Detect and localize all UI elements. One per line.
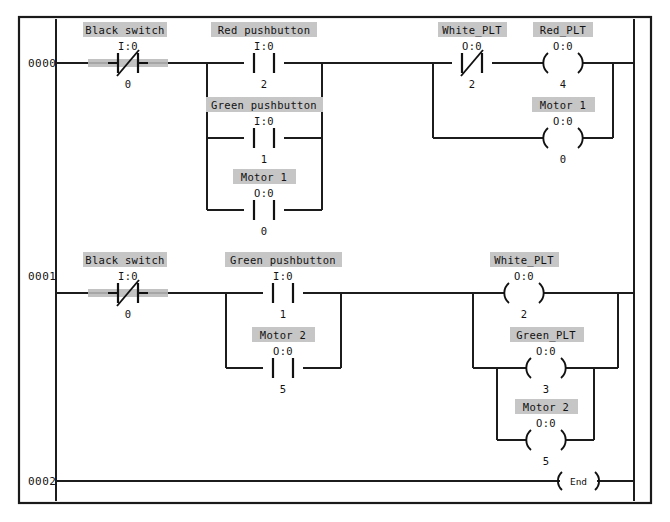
- rung-number-0002: 0002: [28, 475, 57, 488]
- element-address: O:0: [514, 270, 534, 282]
- element-motor1-contact-r0[interactable]: Motor 1 O:0 0: [233, 169, 296, 237]
- element-bit: 2: [521, 308, 527, 320]
- end-label: End: [570, 476, 587, 487]
- element-green-pushbutton-r0[interactable]: Green pushbutton I:0 1: [206, 97, 323, 165]
- element-address: I:0: [254, 115, 274, 127]
- element-address: O:0: [462, 40, 482, 52]
- element-address: I:0: [254, 40, 274, 52]
- element-address: I:0: [118, 40, 138, 52]
- element-name: Motor 1: [540, 99, 586, 111]
- element-green-pushbutton-r1[interactable]: Green pushbutton I:0 1: [225, 252, 342, 320]
- element-white-plt-coil-r1[interactable]: White_PLT O:0 2: [490, 252, 559, 320]
- element-bit: 1: [261, 153, 267, 165]
- element-address: I:0: [273, 270, 293, 282]
- element-address: O:0: [553, 40, 573, 52]
- element-bit: 3: [543, 383, 549, 395]
- element-name: Motor 2: [260, 329, 306, 341]
- element-name: Red_PLT: [540, 24, 587, 37]
- element-address: O:0: [273, 345, 293, 357]
- element-bit: 0: [560, 153, 566, 165]
- element-name: Black switch: [85, 254, 164, 266]
- element-address: O:0: [536, 417, 556, 429]
- element-name: Motor 1: [241, 171, 287, 183]
- element-red-plt-coil-r0[interactable]: Red_PLT O:0 4: [533, 22, 593, 90]
- element-bit: 0: [125, 78, 131, 90]
- element-bit: 5: [280, 383, 286, 395]
- element-bit: 4: [560, 78, 566, 90]
- element-motor1-coil-r0[interactable]: Motor 1 O:0 0: [532, 97, 595, 165]
- element-black-switch-r0[interactable]: Black switch I:0 0: [83, 22, 168, 90]
- element-bit: 2: [469, 78, 475, 90]
- element-bit: 0: [261, 225, 267, 237]
- ladder-diagram-canvas: 0000 Black switch I:0 0 Red pushbutton I…: [0, 0, 670, 522]
- element-bit: 0: [125, 308, 131, 320]
- element-name: Black switch: [85, 24, 164, 36]
- element-black-switch-r1[interactable]: Black switch I:0 0: [83, 252, 168, 320]
- ladder-logic-svg: 0000 Black switch I:0 0 Red pushbutton I…: [0, 0, 670, 522]
- element-address: O:0: [254, 187, 274, 199]
- element-name: Green pushbutton: [211, 99, 317, 111]
- rung-number-0000: 0000: [28, 57, 57, 70]
- element-motor2-coil-r1[interactable]: Motor 2 O:0 5: [515, 399, 578, 467]
- element-name: Green_PLT: [516, 329, 576, 342]
- rung-0002[interactable]: 0002 End: [28, 472, 634, 490]
- element-address: I:0: [118, 270, 138, 282]
- element-name: White_PLT: [442, 24, 502, 37]
- element-bit: 5: [543, 455, 549, 467]
- rung-number-0001: 0001: [28, 270, 57, 283]
- element-name: Green pushbutton: [230, 254, 336, 266]
- element-name: Motor 2: [523, 401, 569, 413]
- element-address: O:0: [553, 115, 573, 127]
- element-motor2-contact-r1[interactable]: Motor 2 O:0 5: [252, 327, 315, 395]
- element-bit: 1: [280, 308, 286, 320]
- element-red-pushbutton-r0[interactable]: Red pushbutton I:0 2: [211, 22, 317, 90]
- rung-0001[interactable]: 0001 Black switch I:0 0 Green pushbutton…: [28, 252, 634, 467]
- element-name: Red pushbutton: [218, 24, 311, 36]
- element-name: White_PLT: [494, 254, 554, 267]
- element-end-coil[interactable]: End: [558, 472, 599, 490]
- element-white-plt-r0[interactable]: White_PLT O:0 2: [438, 22, 507, 90]
- element-bit: 2: [261, 78, 267, 90]
- element-address: O:0: [536, 345, 556, 357]
- rung-0000[interactable]: 0000 Black switch I:0 0 Red pushbutton I…: [28, 22, 634, 237]
- element-green-plt-coil-r1[interactable]: Green_PLT O:0 3: [510, 327, 584, 395]
